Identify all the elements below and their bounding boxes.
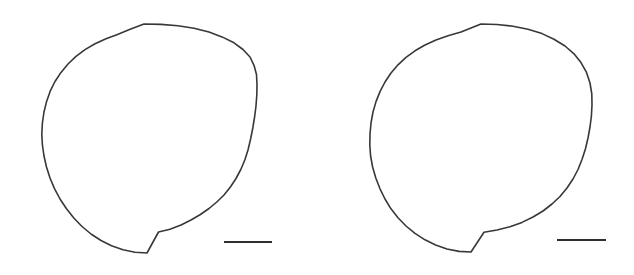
figure-canvas [0, 0, 634, 275]
figure-root [0, 0, 634, 275]
